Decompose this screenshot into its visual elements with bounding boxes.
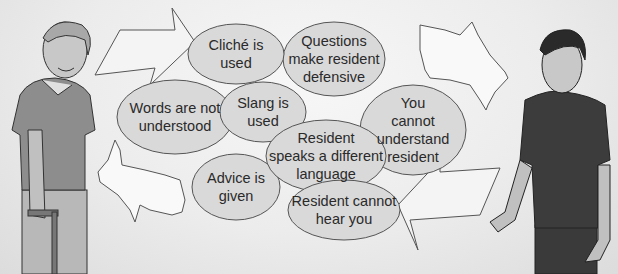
bubble-shape-cannot-hear <box>288 180 400 240</box>
diagram-artwork <box>0 0 618 274</box>
bubble-shape-advice <box>192 154 280 220</box>
bubble-shape-cliche <box>188 24 284 84</box>
communication-barriers-diagram: Cliché is used Questions make resident d… <box>0 0 618 274</box>
bubble-shape-words <box>117 80 233 154</box>
resident-figure-icon <box>12 22 95 274</box>
caregiver-figure-icon <box>490 30 610 274</box>
arrow-left-icon <box>95 8 195 85</box>
bubble-shape-questions <box>283 22 385 96</box>
